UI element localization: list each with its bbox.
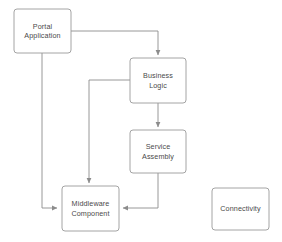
connector-portal-to-business-logic	[71, 31, 158, 55]
connector-service-assembly-to-middleware	[123, 173, 158, 208]
node-box-portal-application[interactable]	[14, 9, 71, 53]
connector-portal-to-middleware	[42, 53, 57, 208]
node-box-business-logic[interactable]	[130, 58, 186, 103]
node-box-middleware-component[interactable]	[62, 186, 119, 231]
connector-business-logic-to-middleware	[89, 80, 130, 183]
node-box-service-assembly[interactable]	[130, 130, 186, 173]
diagram-svg	[0, 0, 282, 242]
node-box-connectivity[interactable]	[212, 188, 269, 230]
diagram-canvas: Portal Application Business Logic Servic…	[0, 0, 282, 242]
